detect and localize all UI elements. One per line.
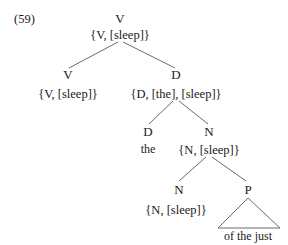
node-verb-left-features: {V, [sleep]} <box>38 88 98 101</box>
branch-det-to-noun <box>179 101 208 124</box>
node-noun-head-features: {N, [sleep]} <box>145 204 206 217</box>
branch-root-to-det <box>123 42 175 68</box>
node-root-category: V <box>115 12 124 25</box>
phrase-triangle <box>218 198 280 228</box>
node-det-head-word: the <box>141 143 156 155</box>
node-noun-head-category: N <box>174 183 183 196</box>
branch-det-to-dethead <box>149 101 173 124</box>
branch-root-to-verb <box>69 42 118 68</box>
node-det-phrase-features: {D, [the], [sleep]} <box>130 88 221 101</box>
node-root-features: {V, [sleep]} <box>90 29 150 42</box>
node-det-phrase-category: D <box>171 68 180 81</box>
branch-noun-to-prep <box>212 157 246 181</box>
node-det-head-category: D <box>143 125 152 138</box>
node-noun-phrase-category: N <box>204 125 213 138</box>
node-verb-left-category: V <box>63 68 72 81</box>
example-number: (59) <box>14 13 35 26</box>
branch-noun-to-nounhead <box>179 157 206 181</box>
node-prep-phrase-category: P <box>244 183 251 196</box>
node-prep-phrase-word: of the just <box>224 230 272 242</box>
node-noun-phrase-features: {N, [sleep]} <box>178 144 239 157</box>
syntax-tree-figure: (59) V {V, [sleep]} V {V, [sleep]} D {D,… <box>0 0 288 245</box>
